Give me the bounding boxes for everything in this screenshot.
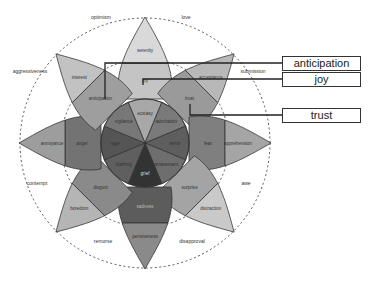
label-terror: terror — [170, 141, 181, 146]
label-loathing: loathing — [116, 162, 133, 167]
dyad-submission: submission — [240, 68, 265, 74]
label-vigilance: vigilance — [115, 119, 133, 124]
callout-joy: joy — [282, 72, 361, 87]
dyad-disapproval: disapproval — [179, 238, 205, 244]
label-anticipation: anticipation — [89, 96, 113, 101]
label-trust: trust — [185, 96, 195, 101]
label-rage: rage — [110, 141, 120, 146]
label-annoyance: annoyance — [41, 141, 64, 146]
label-anger: anger — [76, 141, 88, 146]
dyad-contempt: contempt — [27, 180, 48, 186]
callout-trust: trust — [282, 108, 361, 123]
dyad-love: love — [181, 14, 190, 20]
label-boredom: boredom — [70, 206, 88, 211]
label-serenity: serenity — [137, 48, 154, 53]
petal-sadness-outer — [122, 223, 168, 269]
label-apprehension: apprehension — [224, 141, 252, 146]
dyad-optimism: optimism — [91, 14, 111, 20]
label-distraction: distraction — [200, 206, 221, 211]
label-admiration: admiration — [155, 119, 177, 124]
label-fear: fear — [204, 141, 212, 146]
label-grief: grief — [141, 171, 151, 176]
callout-anticipation: anticipation — [282, 56, 361, 71]
label-interest: interest — [72, 75, 88, 80]
emotion-wheel: ecstasyjoyserenityadmirationtrustaccepta… — [0, 0, 372, 285]
petal-joy-outer — [122, 17, 168, 63]
dyad-remorse: remorse — [94, 238, 113, 244]
dyad-aggressiveness: aggressiveness — [13, 68, 48, 74]
dyad-awe: awe — [241, 180, 250, 186]
label-pensiveness: pensiveness — [132, 234, 158, 239]
label-ecstasy: ecstasy — [137, 111, 153, 116]
label-surprise: surprise — [181, 185, 198, 190]
label-sadness: sadness — [136, 204, 154, 209]
label-amazement: amazement — [154, 162, 179, 167]
label-disgust: disgust — [93, 185, 108, 190]
